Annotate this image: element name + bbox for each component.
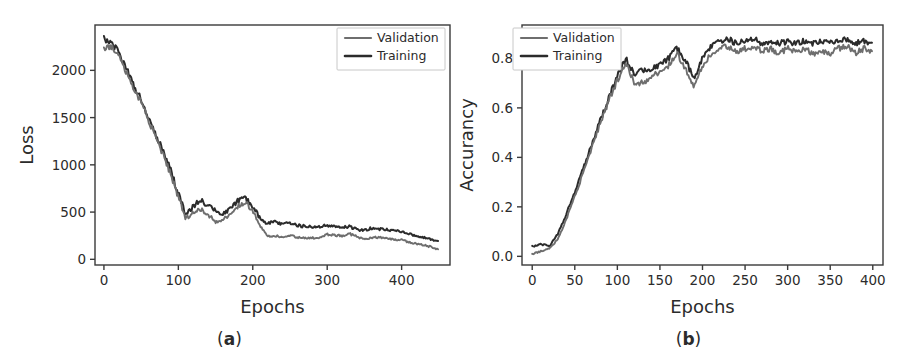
x-tick-label: 300 <box>314 272 340 288</box>
accuracy-chart-svg: 0501001502002503003504000.00.20.40.60.8E… <box>459 0 918 355</box>
x-tick-label: 350 <box>817 272 843 288</box>
x-axis-title: Epochs <box>670 296 735 317</box>
loss-chart-svg: 01002003004000500100015002000EpochsLossV… <box>0 0 459 355</box>
subcaption-b-letter: b <box>682 329 694 349</box>
y-tick-label: 500 <box>60 204 86 220</box>
y-tick-label: 0.4 <box>492 149 513 165</box>
series-line-validation <box>532 44 872 254</box>
y-tick-label: 0.6 <box>492 100 513 116</box>
subcaption-a: (a) <box>0 329 459 349</box>
subcaption-b: (b) <box>459 329 918 349</box>
x-tick-label: 100 <box>165 272 191 288</box>
panel-b-accuracy: 0501001502002503003504000.00.20.40.60.8E… <box>459 0 918 355</box>
x-tick-label: 300 <box>775 272 801 288</box>
subcaption-b-close: ) <box>695 329 702 349</box>
x-tick-label: 100 <box>604 272 630 288</box>
x-tick-label: 200 <box>240 272 266 288</box>
legend-label-training: Training <box>376 48 426 63</box>
y-tick-label: 0.2 <box>492 199 513 215</box>
x-tick-label: 200 <box>690 272 716 288</box>
x-tick-label: 0 <box>100 272 109 288</box>
y-axis-title: Accurancy <box>459 98 477 192</box>
panel-a-loss: 01002003004000500100015002000EpochsLossV… <box>0 0 459 355</box>
x-tick-label: 150 <box>647 272 673 288</box>
y-tick-label: 0 <box>77 251 86 267</box>
x-axis-title: Epochs <box>240 296 305 317</box>
subcaption-a-open: ( <box>217 329 224 349</box>
legend-label-validation: Validation <box>553 30 615 45</box>
legend-label-training: Training <box>552 48 602 63</box>
y-tick-label: 0.8 <box>492 50 513 66</box>
x-tick-label: 0 <box>528 272 537 288</box>
x-tick-label: 250 <box>732 272 758 288</box>
y-axis-title: Loss <box>16 125 37 164</box>
y-tick-label: 0.0 <box>492 248 513 264</box>
x-tick-label: 400 <box>389 272 415 288</box>
subcaption-a-close: ) <box>235 329 242 349</box>
x-tick-label: 50 <box>566 272 583 288</box>
series-line-validation <box>104 45 438 249</box>
y-tick-label: 2000 <box>52 62 86 78</box>
y-tick-label: 1000 <box>52 157 86 173</box>
x-tick-label: 400 <box>860 272 886 288</box>
subcaption-a-letter: a <box>224 329 235 349</box>
y-tick-label: 1500 <box>52 110 86 126</box>
figure-container: 01002003004000500100015002000EpochsLossV… <box>0 0 918 355</box>
legend-label-validation: Validation <box>377 30 439 45</box>
